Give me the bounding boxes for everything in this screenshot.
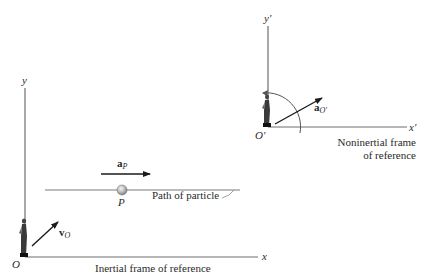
inertial-frame-caption: Inertial frame of reference [95, 262, 211, 274]
noninertial-observer-icon [262, 95, 271, 127]
noninertial-origin-label: O′ [255, 129, 266, 141]
reference-frames-diagram: y x O vO Inertial frame of reference P a… [0, 0, 427, 278]
path-label-leader [222, 190, 234, 198]
velocity-vector-label: vO [59, 226, 71, 240]
noninertial-frame: y′ x′ O′ aO′ Noninertial frame of refere… [255, 12, 417, 161]
particle-group: P aP Path of particle [45, 157, 240, 208]
particle-label: P [117, 196, 125, 208]
inertial-x-axis-label: x [261, 250, 267, 262]
noninertial-frame-caption-line2: of reference [363, 149, 416, 161]
particle-acceleration-label: aP [117, 157, 128, 171]
velocity-vector-vO [32, 222, 58, 246]
particle-icon [117, 185, 127, 195]
noninertial-x-axis-label: x′ [408, 121, 417, 133]
noninertial-frame-caption-line1: Noninertial frame [338, 136, 417, 148]
path-of-particle-label: Path of particle [152, 189, 219, 201]
noninertial-y-axis-label: y′ [263, 12, 272, 24]
inertial-observer-icon [19, 218, 28, 257]
inertial-y-axis-label: y [21, 74, 27, 86]
inertial-origin-label: O [12, 258, 20, 270]
frame-acceleration-label: aO′ [314, 101, 327, 115]
